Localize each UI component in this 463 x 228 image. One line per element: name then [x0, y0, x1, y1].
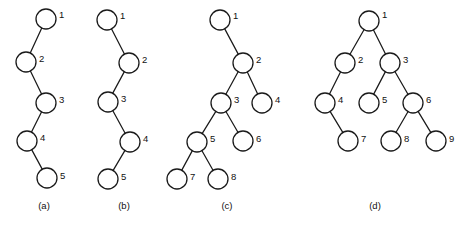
tree-node-label-3: 3: [121, 93, 126, 104]
tree-node-2[interactable]: [233, 53, 253, 73]
tree-node-5[interactable]: [359, 93, 379, 113]
tree-node-8[interactable]: [381, 131, 401, 151]
tree-node-label-1: 1: [382, 9, 387, 20]
tree-edge: [224, 28, 238, 54]
tree-edge: [30, 28, 42, 54]
tree-node-label-2: 2: [142, 54, 147, 65]
tree-node-label-7: 7: [190, 171, 195, 182]
tree-edge: [247, 72, 258, 95]
tree-node-5[interactable]: [98, 169, 118, 189]
tree-node-6[interactable]: [233, 131, 253, 151]
tree-edge: [396, 111, 408, 133]
tree-node-9[interactable]: [426, 131, 446, 151]
tree-node-label-9: 9: [449, 133, 454, 144]
panel-b: 12345(b): [97, 10, 148, 211]
tree-node-label-3: 3: [59, 94, 64, 105]
tree-node-label-6: 6: [256, 133, 261, 144]
tree-node-3[interactable]: [380, 53, 400, 73]
tree-node-label-5: 5: [121, 171, 126, 182]
tree-node-2[interactable]: [16, 52, 36, 72]
tree-edge: [31, 112, 42, 133]
panel-caption: (a): [38, 200, 50, 211]
tree-node-4[interactable]: [17, 131, 37, 151]
tree-edge: [373, 30, 386, 55]
binary-tree-figure: 12345(a)12345(b)12345678(c)123456789(d): [0, 0, 463, 228]
tree-node-5[interactable]: [187, 132, 207, 152]
tree-edge: [113, 110, 126, 133]
tree-node-7[interactable]: [338, 131, 358, 151]
tree-node-label-1: 1: [59, 9, 64, 20]
tree-edge: [30, 71, 42, 95]
tree-node-label-1: 1: [233, 10, 238, 21]
tree-edge: [111, 28, 124, 54]
tree-node-label-5: 5: [60, 170, 65, 181]
tree-node-1[interactable]: [36, 9, 56, 29]
panel-d: 123456789(d): [315, 9, 454, 211]
tree-node-label-2: 2: [39, 53, 44, 64]
tree-node-label-5: 5: [382, 94, 387, 105]
tree-edge: [113, 71, 125, 93]
tree-diagram-canvas: 12345(a)12345(b)12345678(c)123456789(d): [0, 0, 463, 228]
panel-caption: (c): [221, 200, 232, 211]
tree-edge: [113, 150, 125, 171]
tree-edge: [330, 111, 343, 133]
tree-edge: [418, 111, 431, 133]
tree-node-7[interactable]: [167, 169, 187, 189]
tree-node-1[interactable]: [210, 10, 230, 30]
panel-caption: (d): [369, 200, 381, 211]
tree-node-4[interactable]: [120, 132, 140, 152]
edge-group: [329, 29, 431, 133]
tree-node-label-2: 2: [256, 54, 261, 65]
tree-node-label-1: 1: [120, 10, 125, 21]
tree-node-3[interactable]: [211, 93, 231, 113]
tree-node-label-3: 3: [403, 54, 408, 65]
tree-node-3[interactable]: [36, 93, 56, 113]
tree-edge: [202, 111, 216, 134]
tree-edge: [350, 29, 365, 55]
tree-node-label-4: 4: [275, 94, 280, 105]
tree-node-1[interactable]: [97, 10, 117, 30]
panel-a: 12345(a): [16, 9, 65, 211]
tree-node-label-4: 4: [40, 132, 45, 143]
tree-edge: [202, 150, 214, 170]
tree-node-5[interactable]: [37, 168, 57, 188]
tree-node-2[interactable]: [119, 53, 139, 73]
tree-node-2[interactable]: [335, 53, 355, 73]
tree-node-label-2: 2: [358, 54, 363, 65]
tree-node-label-4: 4: [338, 94, 343, 105]
tree-node-1[interactable]: [359, 11, 379, 31]
tree-node-label-6: 6: [426, 94, 431, 105]
tree-node-8[interactable]: [208, 169, 228, 189]
tree-edge: [329, 72, 341, 95]
tree-edge: [32, 149, 43, 169]
tree-edge: [373, 71, 385, 94]
tree-node-4[interactable]: [252, 93, 272, 113]
tree-node-4[interactable]: [315, 93, 335, 113]
tree-edge: [182, 150, 193, 170]
tree-node-label-7: 7: [361, 133, 366, 144]
panel-c: 12345678(c): [167, 10, 280, 211]
tree-edge: [395, 71, 409, 95]
tree-edge: [226, 71, 239, 94]
tree-node-label-5: 5: [210, 133, 215, 144]
tree-node-3[interactable]: [98, 92, 118, 112]
tree-node-label-8: 8: [231, 171, 236, 182]
tree-node-label-8: 8: [404, 133, 409, 144]
tree-node-6[interactable]: [403, 93, 423, 113]
tree-edge: [226, 111, 238, 133]
tree-node-label-4: 4: [143, 133, 148, 144]
panel-caption: (b): [118, 200, 130, 211]
tree-node-label-3: 3: [234, 94, 239, 105]
